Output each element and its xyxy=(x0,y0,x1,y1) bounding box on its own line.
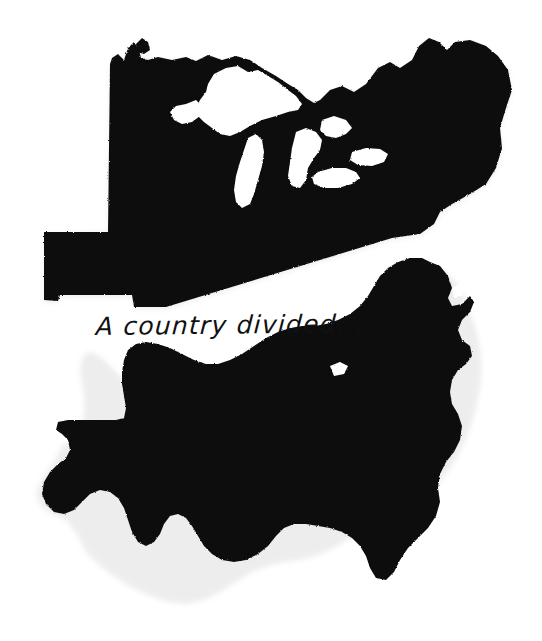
southern-united-states-cutout xyxy=(0,0,542,641)
poster-canvas: A country divided. . . xyxy=(0,0,542,641)
